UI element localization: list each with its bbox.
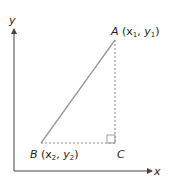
segment-ab (41, 40, 115, 143)
diagram-svg: y x A (x1, y1) B (x2, y2) C (0, 0, 170, 178)
point-a-label: A (x1, y1) (110, 25, 160, 39)
right-angle-marker (107, 135, 115, 143)
y-axis-label: y (8, 14, 16, 27)
point-b-label: B (x2, y2) (30, 148, 79, 162)
x-axis-label: x (153, 165, 161, 178)
distance-diagram: y x A (x1, y1) B (x2, y2) C (0, 0, 170, 178)
point-c-label: C (117, 148, 125, 161)
